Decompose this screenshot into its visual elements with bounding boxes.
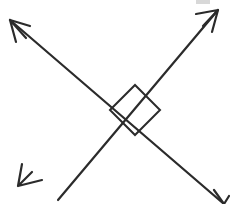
figure-background: [0, 0, 230, 204]
geometry-canvas: Two intersecting perpendicular lines wit…: [0, 0, 230, 204]
scan-smudge-top-icon: [196, 0, 210, 4]
geometry-figure: Two intersecting perpendicular lines wit…: [0, 0, 230, 204]
